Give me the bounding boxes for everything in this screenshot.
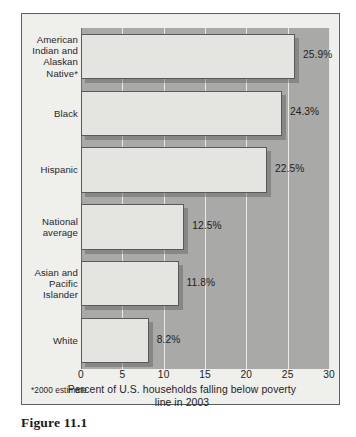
- bar-row: 8.2%: [81, 318, 329, 363]
- category-label: White: [53, 335, 78, 346]
- x-tick-label: 25: [282, 369, 294, 380]
- bar-row: 24.3%: [81, 91, 329, 136]
- figure-caption: Figure 11.1: [21, 415, 87, 431]
- x-tick-label: 20: [240, 369, 252, 380]
- x-tick-label: 15: [199, 369, 211, 380]
- chart-footnote: *2000 estimate: [31, 386, 87, 395]
- bar-row: 22.5%: [81, 147, 329, 192]
- bar-value-label: 11.8%: [187, 277, 216, 288]
- category-label: Asian and Pacific Islander: [34, 267, 78, 301]
- bar[interactable]: [81, 34, 295, 79]
- bar-value-label: 25.9%: [303, 49, 332, 60]
- x-axis: 051015202530: [81, 369, 329, 383]
- bar-row: 25.9%: [81, 34, 329, 79]
- category-axis: American Indian and Alaskan Native*Black…: [22, 14, 81, 369]
- bar-value-label: 22.5%: [275, 163, 304, 174]
- bar[interactable]: [81, 91, 282, 136]
- category-label: National average: [42, 216, 78, 239]
- category-label: Black: [54, 108, 78, 119]
- bar-value-label: 24.3%: [290, 106, 319, 117]
- plot-area: 25.9%24.3%22.5%12.5%11.8%8.2%: [81, 28, 329, 369]
- bar[interactable]: [81, 318, 149, 363]
- x-axis-title: Percent of U.S. households falling below…: [62, 384, 302, 409]
- category-label: American Indian and Alaskan Native*: [32, 34, 78, 80]
- figure-frame: American Indian and Alaskan Native*Black…: [21, 13, 340, 405]
- x-tick-label: 0: [78, 369, 84, 380]
- bar-row: 12.5%: [81, 204, 329, 249]
- bar-row: 11.8%: [81, 261, 329, 306]
- bar[interactable]: [81, 204, 184, 249]
- x-tick-label: 10: [158, 369, 170, 380]
- bar-value-label: 12.5%: [192, 220, 221, 231]
- x-tick-label: 5: [119, 369, 125, 380]
- bar[interactable]: [81, 147, 267, 192]
- gridline: [329, 28, 330, 369]
- bar-value-label: 8.2%: [157, 334, 181, 345]
- x-tick-label: 30: [323, 369, 335, 380]
- bar[interactable]: [81, 261, 179, 306]
- category-label: Hispanic: [40, 164, 78, 175]
